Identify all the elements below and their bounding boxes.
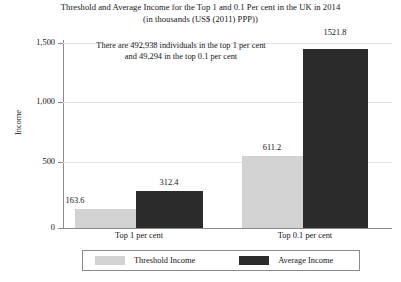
- y-tick-label-1500: 1,500: [0, 38, 55, 47]
- chart-subtitle: (in thousands (US$ (2011) PPP)): [0, 13, 401, 25]
- x-category-label-top-01: Top 0.1 per cent: [245, 231, 365, 240]
- legend-label-average-income: Average Income: [278, 256, 333, 265]
- chart-legend: Threshold Income Average Income: [82, 250, 360, 271]
- legend-item-average-income: Average Income: [239, 251, 333, 270]
- legend-label-threshold-income: Threshold Income: [134, 256, 195, 265]
- legend-swatch-average-income: [239, 256, 269, 265]
- chart-title: Threshold and Average Income for the Top…: [0, 1, 401, 13]
- bar-value-threshold-top-01: 611.2: [242, 143, 302, 152]
- y-tick-label-500: 500: [0, 157, 55, 166]
- y-tick-label-1000: 1,000: [0, 97, 55, 106]
- bar-value-threshold-top-1: 163.6: [45, 196, 105, 205]
- chart-title-block: Threshold and Average Income for the Top…: [0, 1, 401, 25]
- annotation-line-1: There are 492,938 individuals in the top…: [66, 40, 296, 51]
- plot-area: [63, 40, 392, 228]
- bar-threshold-top-01: [242, 156, 303, 228]
- chart-figure: Threshold and Average Income for the Top…: [0, 0, 401, 282]
- y-tick-label-0: 0: [0, 223, 55, 232]
- bar-value-average-top-1: 312.4: [139, 178, 199, 187]
- annotation-line-2: and 49,294 in the top 0.1 per cent: [66, 51, 296, 62]
- bar-average-top-1: [136, 191, 203, 228]
- bar-average-top-01: [303, 49, 368, 228]
- x-category-label-top-1: Top 1 per cent: [79, 231, 199, 240]
- bar-threshold-top-1: [75, 209, 136, 228]
- x-axis-line: [63, 228, 392, 229]
- bar-value-average-top-01: 1521.8: [305, 28, 365, 37]
- legend-item-threshold-income: Threshold Income: [95, 251, 195, 270]
- legend-swatch-threshold-income: [95, 256, 125, 265]
- chart-annotation: There are 492,938 individuals in the top…: [66, 40, 296, 62]
- y-axis-title: Income: [14, 83, 23, 163]
